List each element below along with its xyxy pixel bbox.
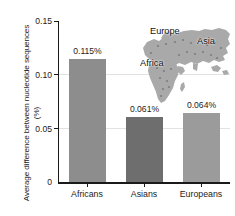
map-label-africa: Africa [140, 58, 164, 68]
y-tick-mark-015 [54, 21, 58, 22]
y-tick-label-005: 0.05 [35, 124, 52, 134]
y-tick-label-015: 0.15 [35, 16, 52, 26]
map-label-europe: Europe [150, 26, 180, 36]
map-label-asia: Asia [197, 36, 215, 46]
x-tick-mark-asians [144, 183, 145, 187]
bar-asians: 0.061% [126, 117, 163, 183]
x-tick-mark-africans [87, 183, 88, 187]
bar-fill-europeans [183, 113, 220, 182]
bar-europeans: 0.064% [183, 113, 220, 182]
x-category-label-asians: Asians [131, 189, 157, 199]
x-tick-mark-europeans [201, 183, 202, 187]
bar-chart-figure: Average difference between nucleotide se… [0, 0, 235, 216]
bar-fill-africans [69, 59, 106, 183]
bar-fill-asians [126, 117, 163, 183]
bar-value-label-africans: 0.115% [73, 46, 102, 56]
y-tick-label-000: 0 [47, 177, 52, 187]
bar-africans: 0.115% [69, 59, 106, 183]
x-category-label-europeans: Europeans [180, 189, 223, 199]
y-tick-label-010: 0.10 [35, 70, 52, 80]
y-axis-title: Average difference between nucleotide se… [19, 18, 45, 208]
world-map-inset: Europe Asia Africa [131, 22, 233, 106]
y-tick-mark-010 [54, 74, 58, 75]
y-axis-line [58, 21, 59, 183]
y-tick-mark-005 [54, 128, 58, 129]
x-category-label-africans: Africans [71, 189, 103, 199]
